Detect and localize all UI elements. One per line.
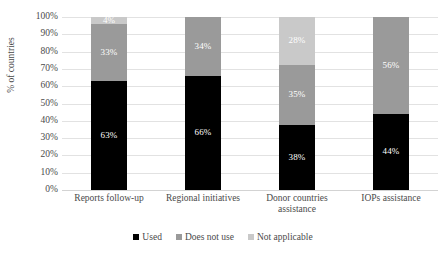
legend-swatch-icon bbox=[176, 234, 182, 240]
legend-item[interactable]: Used bbox=[133, 232, 162, 242]
stacked-bar[interactable]: 56%44% bbox=[373, 17, 409, 190]
bar-segment-value-label: 28% bbox=[289, 36, 306, 45]
bar-segment-notuse[interactable]: 56% bbox=[373, 17, 409, 114]
y-axis-tick-label: 100% bbox=[18, 12, 58, 22]
bar-segment-value-label: 44% bbox=[383, 147, 400, 156]
y-axis-tick-label: 40% bbox=[18, 116, 58, 126]
bar-segment-na[interactable]: 4% bbox=[91, 17, 127, 24]
bar-segment-value-label: 56% bbox=[383, 61, 400, 70]
x-axis-category-labels: Reports follow-upRegional initiativesDon… bbox=[62, 193, 438, 223]
x-axis-category-label: IOPs assistance bbox=[348, 193, 434, 204]
stacked-bar[interactable]: 28%35%38% bbox=[279, 17, 315, 190]
bar-group: 4%33%63% bbox=[86, 17, 132, 190]
y-axis-tick-label: 10% bbox=[18, 168, 58, 178]
legend-label: Does not use bbox=[185, 232, 234, 242]
bar-segment-value-label: 34% bbox=[195, 42, 212, 51]
bar-segment-value-label: 63% bbox=[101, 131, 118, 140]
bar-segment-value-label: 66% bbox=[195, 128, 212, 137]
stacked-bar-chart: % of countries 100%90%80%70%60%50%40%30%… bbox=[0, 0, 446, 257]
y-axis-tick-label: 80% bbox=[18, 47, 58, 57]
x-axis-category-label: Regional initiatives bbox=[160, 193, 246, 204]
chart-legend: UsedDoes not useNot applicable bbox=[0, 232, 446, 242]
bar-segment-used[interactable]: 38% bbox=[279, 125, 315, 190]
y-axis-tick-label: 0% bbox=[18, 185, 58, 195]
bar-segment-notuse[interactable]: 34% bbox=[185, 17, 221, 76]
legend-swatch-icon bbox=[133, 234, 139, 240]
bar-segment-used[interactable]: 63% bbox=[91, 81, 127, 190]
y-axis-tick-labels: 100%90%80%70%60%50%40%30%20%10%0% bbox=[14, 17, 58, 190]
y-axis-tick-label: 20% bbox=[18, 150, 58, 160]
gridline bbox=[62, 190, 438, 191]
stacked-bar[interactable]: 4%33%63% bbox=[91, 17, 127, 190]
bar-group: 56%44% bbox=[368, 17, 414, 190]
bar-segment-used[interactable]: 44% bbox=[373, 114, 409, 190]
legend-swatch-icon bbox=[248, 234, 254, 240]
legend-label: Not applicable bbox=[257, 232, 313, 242]
plot-area: 4%33%63%34%66%28%35%38%56%44% bbox=[62, 17, 438, 190]
stacked-bar[interactable]: 34%66% bbox=[185, 17, 221, 190]
bar-segment-value-label: 35% bbox=[289, 90, 306, 99]
y-axis-tick-label: 90% bbox=[18, 29, 58, 39]
legend-label: Used bbox=[142, 232, 162, 242]
legend-item[interactable]: Does not use bbox=[176, 232, 234, 242]
bar-segment-na[interactable]: 28% bbox=[279, 17, 315, 65]
bar-segment-notuse[interactable]: 33% bbox=[91, 24, 127, 81]
y-axis-tick-label: 70% bbox=[18, 64, 58, 74]
bar-segment-value-label: 33% bbox=[101, 48, 118, 57]
bar-group: 28%35%38% bbox=[274, 17, 320, 190]
legend-item[interactable]: Not applicable bbox=[248, 232, 313, 242]
x-axis-category-label: Donor countries assistance bbox=[254, 193, 340, 215]
y-axis-tick-label: 50% bbox=[18, 99, 58, 109]
y-axis-tick-label: 60% bbox=[18, 81, 58, 91]
y-axis-tick-label: 30% bbox=[18, 133, 58, 143]
bar-segment-used[interactable]: 66% bbox=[185, 76, 221, 190]
bar-group: 34%66% bbox=[180, 17, 226, 190]
bar-segment-notuse[interactable]: 35% bbox=[279, 65, 315, 125]
x-axis-category-label: Reports follow-up bbox=[66, 193, 152, 204]
bar-segment-value-label: 38% bbox=[289, 153, 306, 162]
